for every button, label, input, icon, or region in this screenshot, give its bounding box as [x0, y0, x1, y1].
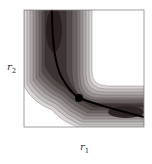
x-label-sub: 1: [85, 147, 89, 155]
x-axis-label: r1: [80, 141, 89, 155]
y-label-sub: 2: [12, 67, 16, 75]
optimum-point: [75, 94, 83, 102]
contour-fills: [24, 8, 144, 127]
y-axis-label: r2: [7, 61, 16, 75]
contour-plot: [0, 0, 152, 164]
